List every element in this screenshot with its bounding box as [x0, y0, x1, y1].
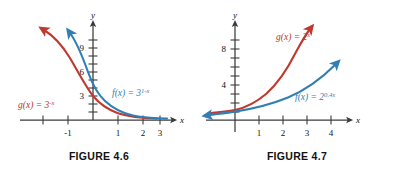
- figure-4-6-label-f: f(x) = 31-x: [112, 87, 150, 99]
- figure-4-7-label-g: g(x) = 2x: [276, 31, 310, 43]
- figure-4-6: -1 1 2 3 x 3 6 9: [0, 0, 198, 179]
- figure-4-6-x-axis-label: x: [179, 115, 184, 125]
- figure-4-7-x-axis-label: x: [355, 115, 360, 125]
- figure-4-7-x-axis: 1 2 3 4 x: [206, 115, 360, 138]
- figure-4-7-xtick-1: 1: [257, 128, 262, 138]
- figure-4-7-label-f: f(x) = 20.4x: [295, 91, 335, 103]
- figure-pair-container: -1 1 2 3 x 3 6 9: [0, 0, 396, 179]
- figure-4-7-caption: FIGURE 4.7: [198, 150, 396, 162]
- figure-4-6-xtick-3: 3: [158, 128, 163, 138]
- figure-4-7-ytick-4: 4: [222, 80, 227, 90]
- figure-4-7-curve-f-tail-arrow: [208, 114, 218, 116]
- figure-4-7-xtick-2: 2: [281, 128, 286, 138]
- figure-4-7-xtick-4: 4: [329, 128, 334, 138]
- figure-4-6-xtick-1: 1: [116, 128, 121, 138]
- figure-4-7-xtick-3: 3: [305, 128, 310, 138]
- figure-4-6-plot: -1 1 2 3 x 3 6 9: [0, 0, 198, 150]
- figure-4-6-curve-f: [70, 33, 167, 119]
- figure-4-7: 1 2 3 4 x 4 8 y: [198, 0, 396, 179]
- figure-4-6-caption: FIGURE 4.6: [0, 150, 198, 162]
- figure-4-6-y-axis-label: y: [90, 10, 95, 20]
- figure-4-7-plot: 1 2 3 4 x 4 8 y: [198, 0, 396, 150]
- figure-4-6-curve-g: [44, 30, 157, 119]
- figure-4-7-y-axis-label: y: [232, 10, 237, 20]
- figure-4-7-curve-f: [210, 64, 336, 115]
- figure-4-6-xtick--1: -1: [64, 128, 72, 138]
- figure-4-6-ytick-3: 3: [80, 91, 85, 101]
- figure-4-7-ytick-8: 8: [222, 44, 227, 54]
- figure-4-6-label-g: g(x) = 3-x: [18, 99, 54, 111]
- figure-4-6-y-axis: 3 6 9 y: [80, 10, 98, 120]
- figure-4-6-xtick-2: 2: [141, 128, 146, 138]
